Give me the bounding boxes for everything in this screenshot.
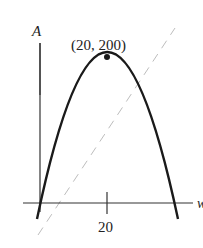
x-axis-label: w (197, 196, 203, 211)
vertex-point (104, 54, 110, 60)
x-tick-label: 20 (98, 219, 113, 235)
y-axis-label: A (31, 23, 42, 39)
vertex-label: (20, 200) (71, 37, 126, 54)
parabola-diagram: A (20, 200) 20 w (0, 0, 203, 248)
